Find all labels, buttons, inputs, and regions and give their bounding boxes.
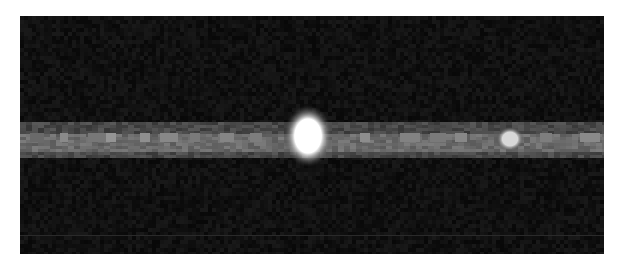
noise-texture: [20, 16, 604, 254]
image-frame: [20, 16, 604, 254]
